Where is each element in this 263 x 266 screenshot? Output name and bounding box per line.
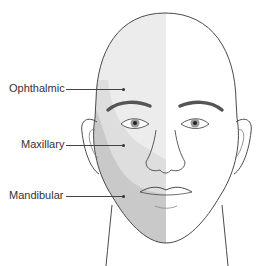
label-ophthalmic: Ophthalmic [9,82,65,94]
label-mandibular: Mandibular [9,189,63,201]
leader-ophthalmic [66,89,122,90]
dot-ophthalmic [122,88,125,91]
leader-maxillary [66,145,122,146]
label-maxillary: Maxillary [21,138,64,150]
leader-mandibular [66,196,122,197]
right-eye [181,119,209,129]
dermatome-regions [90,10,166,250]
head-illustration [0,0,263,266]
right-ear [234,119,251,174]
dot-mandibular [122,195,125,198]
dot-maxillary [122,144,125,147]
right-eyebrow [180,102,222,110]
